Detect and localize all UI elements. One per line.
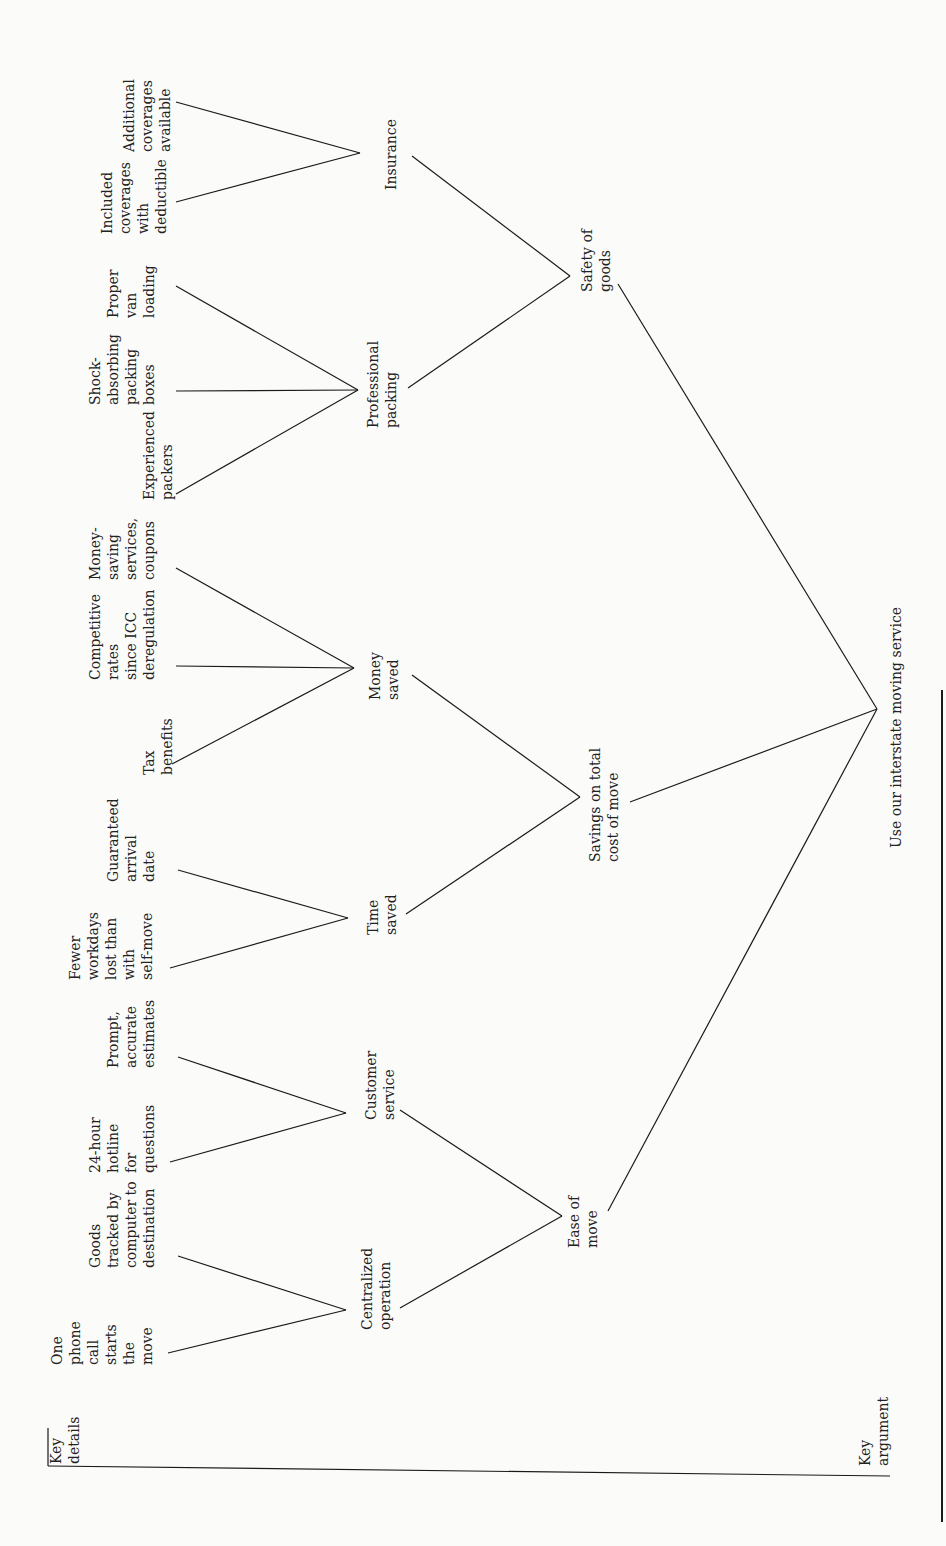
sub-centralized-operation: Centralized operation — [358, 1248, 394, 1330]
detail-24-hour-hotline: 24-hour hotline for questions — [86, 1105, 158, 1173]
sub-insurance: Insurance — [382, 119, 400, 190]
edge-custserv-ease — [400, 1110, 562, 1216]
edge-money-savings — [412, 675, 580, 797]
edge-central-ease — [400, 1216, 562, 1308]
edge-d8-money — [176, 666, 354, 668]
edge-d1-central — [168, 1310, 346, 1353]
edge-d5-time — [170, 918, 348, 968]
edge-d4-custserv — [178, 1057, 346, 1113]
edge-d7-money — [172, 668, 354, 764]
edge-time-savings — [406, 797, 580, 914]
baseline-rule — [48, 1466, 890, 1476]
edge-d11-packing — [176, 390, 358, 391]
edge-d6-time — [178, 870, 348, 918]
detail-fewer-workdays: Fewer workdays lost than with self-move — [66, 912, 156, 980]
edge-packing-safety — [408, 276, 570, 388]
detail-money-saving-services: Money- saving services, coupons — [86, 518, 158, 580]
detail-one-phone-call: One phone call starts the move — [48, 1321, 156, 1365]
edge-safety-root — [618, 284, 877, 709]
sub-time-saved: Time saved — [364, 894, 400, 935]
detail-included-coverages: Included coverages with deductible — [98, 159, 170, 234]
root-key-argument: Use our interstate moving service — [887, 607, 905, 848]
sub-money-saved: Money saved — [366, 652, 402, 700]
edge-d3-custserv — [170, 1113, 346, 1162]
edge-d2-central — [178, 1256, 346, 1310]
detail-shock-absorbing-boxes: Shock- absorbing packing boxes — [86, 334, 158, 405]
detail-additional-coverages: Additional coverages available — [120, 79, 174, 152]
edge-d10-packing — [176, 390, 358, 494]
detail-experienced-packers: Experienced packers — [140, 411, 176, 500]
arg-safety-of-goods: Safety of goods — [578, 229, 614, 292]
detail-prompt-estimates: Prompt, accurate estimates — [104, 1000, 158, 1068]
detail-competitive-rates: Competitive rates since ICC deregulation — [86, 589, 158, 680]
edge-savings-root — [630, 709, 877, 802]
edge-d12-packing — [176, 286, 358, 390]
argument-tree-diagram: Key details Key argument One phone call … — [0, 0, 946, 1546]
edge-d9-money — [176, 568, 354, 668]
arg-savings-on-total-cost: Savings on total cost of move — [586, 748, 622, 862]
detail-guaranteed-arrival: Guaranteed arrival date — [104, 798, 158, 882]
edge-insurance-safety — [412, 156, 570, 276]
edge-d14-insurance — [176, 102, 360, 153]
arg-ease-of-move: Ease of move — [565, 1196, 601, 1248]
detail-proper-van-loading: Proper van loading — [104, 265, 158, 318]
key-details-label: Key details — [47, 1417, 83, 1464]
detail-tax-benefits: Tax benefits — [140, 718, 176, 775]
edge-ease-root — [608, 709, 877, 1211]
key-argument-label: Key argument — [856, 1397, 892, 1466]
sub-customer-service: Customer service — [362, 1051, 398, 1120]
detail-goods-tracked: Goods tracked by computer to destination — [86, 1181, 158, 1268]
sub-professional-packing: Professional packing — [364, 341, 400, 428]
edge-d13-insurance — [176, 153, 360, 202]
